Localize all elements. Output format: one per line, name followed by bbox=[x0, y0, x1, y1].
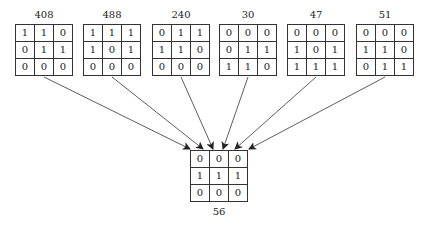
arrow-2 bbox=[181, 77, 213, 149]
cell: 1 bbox=[84, 42, 103, 59]
cell: 1 bbox=[122, 25, 141, 42]
source-grid-1: 111 101 000 bbox=[83, 24, 141, 76]
cell: 1 bbox=[54, 42, 73, 59]
cell: 0 bbox=[395, 42, 414, 59]
cell: 0 bbox=[16, 42, 35, 59]
cell: 1 bbox=[376, 59, 395, 76]
cell: 0 bbox=[258, 59, 277, 76]
cell: 1 bbox=[326, 59, 345, 76]
arrow-0 bbox=[44, 77, 190, 149]
cell: 0 bbox=[258, 25, 277, 42]
cell: 1 bbox=[307, 59, 326, 76]
cell: 0 bbox=[191, 151, 210, 168]
cell: 0 bbox=[395, 25, 414, 42]
cell: 1 bbox=[376, 42, 395, 59]
cell: 0 bbox=[153, 25, 172, 42]
cell: 0 bbox=[307, 42, 326, 59]
cell: 1 bbox=[84, 25, 103, 42]
cell: 0 bbox=[103, 42, 122, 59]
source-label-2: 240 bbox=[151, 9, 211, 20]
cell: 0 bbox=[326, 25, 345, 42]
source-label-3: 30 bbox=[218, 9, 278, 20]
cell: 1 bbox=[239, 42, 258, 59]
cell: 0 bbox=[172, 59, 191, 76]
cell: 1 bbox=[229, 168, 248, 185]
cell: 0 bbox=[84, 59, 103, 76]
source-grid-2: 011 110 000 bbox=[152, 24, 210, 76]
cell: 1 bbox=[191, 25, 210, 42]
cell: 0 bbox=[229, 151, 248, 168]
cell: 1 bbox=[191, 168, 210, 185]
cell: 0 bbox=[103, 59, 122, 76]
cell: 1 bbox=[326, 42, 345, 59]
source-label-1: 488 bbox=[82, 9, 142, 20]
cell: 1 bbox=[172, 25, 191, 42]
cell: 1 bbox=[103, 25, 122, 42]
cell: 0 bbox=[191, 185, 210, 202]
source-label-4: 47 bbox=[286, 9, 346, 20]
arrow-1 bbox=[112, 77, 203, 149]
cell: 0 bbox=[54, 59, 73, 76]
cell: 0 bbox=[357, 59, 376, 76]
cell: 0 bbox=[191, 59, 210, 76]
source-grid-3: 000 011 110 bbox=[219, 24, 277, 76]
cell: 1 bbox=[357, 42, 376, 59]
cell: 0 bbox=[210, 151, 229, 168]
cell: 0 bbox=[288, 25, 307, 42]
cell: 1 bbox=[16, 25, 35, 42]
cell: 0 bbox=[16, 59, 35, 76]
cell: 1 bbox=[220, 59, 239, 76]
cell: 0 bbox=[220, 42, 239, 59]
cell: 0 bbox=[307, 25, 326, 42]
arrow-3 bbox=[223, 77, 248, 149]
cell: 0 bbox=[122, 59, 141, 76]
cell: 0 bbox=[239, 25, 258, 42]
arrow-4 bbox=[235, 77, 316, 149]
cell: 0 bbox=[357, 25, 376, 42]
arrow-5 bbox=[249, 77, 385, 149]
cell: 0 bbox=[35, 59, 54, 76]
source-grid-4: 000 101 111 bbox=[287, 24, 345, 76]
cell: 1 bbox=[172, 42, 191, 59]
cell: 1 bbox=[35, 42, 54, 59]
cell: 1 bbox=[122, 42, 141, 59]
cell: 1 bbox=[395, 59, 414, 76]
target-label: 56 bbox=[189, 206, 249, 217]
source-grid-0: 110 011 000 bbox=[15, 24, 73, 76]
cell: 1 bbox=[239, 59, 258, 76]
cell: 0 bbox=[191, 42, 210, 59]
cell: 1 bbox=[288, 42, 307, 59]
source-label-5: 51 bbox=[355, 9, 415, 20]
arrow-group bbox=[44, 77, 385, 149]
cell: 1 bbox=[288, 59, 307, 76]
diagram-canvas: 408 110 011 000 488 111 101 000 240 011 … bbox=[0, 0, 423, 226]
target-grid: 000 111 000 bbox=[190, 150, 248, 202]
source-label-0: 408 bbox=[14, 9, 74, 20]
cell: 0 bbox=[220, 25, 239, 42]
cell: 0 bbox=[376, 25, 395, 42]
cell: 0 bbox=[210, 185, 229, 202]
cell: 1 bbox=[210, 168, 229, 185]
source-grid-5: 000 110 011 bbox=[356, 24, 414, 76]
cell: 1 bbox=[258, 42, 277, 59]
cell: 0 bbox=[229, 185, 248, 202]
cell: 1 bbox=[35, 25, 54, 42]
cell: 0 bbox=[153, 59, 172, 76]
cell: 0 bbox=[54, 25, 73, 42]
cell: 1 bbox=[153, 42, 172, 59]
